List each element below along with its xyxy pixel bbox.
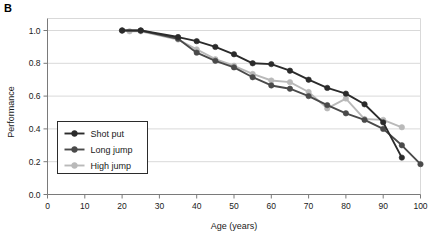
data-point (213, 44, 218, 49)
x-tick-label: 40 (192, 201, 202, 211)
data-point (343, 111, 348, 116)
legend-label: High jump (91, 161, 132, 171)
series-line (130, 31, 402, 127)
x-tick-label: 100 (413, 201, 427, 211)
data-point (362, 102, 367, 107)
x-tick-label: 80 (341, 201, 351, 211)
series-line (122, 31, 402, 158)
x-tick-label: 70 (304, 201, 314, 211)
data-point (362, 117, 367, 122)
legend-label: Long jump (91, 145, 133, 155)
chart-legend: Shot putLong jumpHigh jump (58, 122, 148, 174)
data-point (306, 77, 311, 82)
data-point (381, 120, 386, 125)
data-point (194, 38, 199, 43)
data-point (269, 83, 274, 88)
series-line (122, 31, 420, 165)
series-long-jump (119, 28, 423, 167)
y-axis-label: Performance (6, 86, 16, 138)
x-tick-label: 0 (45, 201, 50, 211)
x-axis-ticks: 0102030405060708090100 (45, 195, 428, 211)
series-high-jump (127, 29, 405, 130)
series-shot-put (119, 28, 404, 161)
y-tick-label: 0.8 (29, 58, 41, 68)
x-tick-label: 10 (80, 201, 90, 211)
line-chart: 0102030405060708090100 0.00.20.40.60.81.… (0, 0, 437, 237)
data-point (418, 161, 423, 166)
data-point (119, 28, 124, 33)
y-tick-label: 0.2 (29, 157, 41, 167)
data-point (269, 61, 274, 66)
legend-marker (72, 147, 78, 153)
x-axis-label: Age (years) (211, 221, 258, 231)
data-point (213, 58, 218, 63)
x-tick-label: 30 (155, 201, 165, 211)
data-point (399, 125, 404, 130)
data-point (250, 75, 255, 80)
x-tick-label: 90 (378, 201, 388, 211)
data-point (250, 61, 255, 66)
x-tick-label: 20 (117, 201, 127, 211)
y-tick-label: 0.4 (29, 124, 41, 134)
x-tick-label: 50 (229, 201, 239, 211)
data-point (194, 50, 199, 55)
data-point (138, 28, 143, 33)
data-point (325, 102, 330, 107)
x-tick-label: 60 (267, 201, 277, 211)
legend-marker (72, 131, 78, 137)
data-series-layer (119, 28, 423, 167)
y-tick-label: 0.6 (29, 91, 41, 101)
data-point (287, 79, 292, 84)
y-tick-label: 1.0 (29, 26, 41, 36)
data-point (325, 85, 330, 90)
data-point (343, 96, 348, 101)
legend-label: Shot put (91, 129, 125, 139)
data-point (175, 34, 180, 39)
y-tick-label: 0.0 (29, 190, 41, 200)
data-point (306, 93, 311, 98)
data-point (287, 68, 292, 73)
data-point (399, 155, 404, 160)
data-point (343, 91, 348, 96)
y-axis-ticks: 0.00.20.40.60.81.0 (29, 26, 48, 200)
data-point (269, 78, 274, 83)
data-point (287, 86, 292, 91)
figure-panel-b: B 0102030405060708090100 0.00.20.40.60.8… (0, 0, 437, 237)
data-point (231, 65, 236, 70)
data-point (399, 143, 404, 148)
data-point (231, 52, 236, 57)
legend-marker (72, 163, 78, 169)
